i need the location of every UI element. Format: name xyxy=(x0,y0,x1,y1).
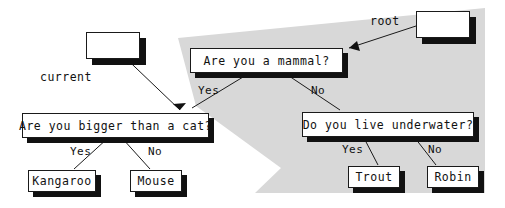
node-question-underwater[interactable]: Do you live underwater? xyxy=(302,112,474,137)
edge-label-underwater-yes: Yes xyxy=(342,143,363,156)
annotation-current: current xyxy=(40,70,92,84)
root-node-box[interactable] xyxy=(416,11,470,38)
node-leaf-robin[interactable]: Robin xyxy=(427,166,479,188)
annotation-root: root xyxy=(370,14,400,28)
edge-label-bigger-no: No xyxy=(148,145,162,158)
diagram-canvas: current root Are you a mammal? Are you b… xyxy=(0,0,505,208)
node-leaf-kangaroo[interactable]: Kangaroo xyxy=(28,170,96,192)
pointer-root-line xyxy=(349,26,416,48)
arrowhead-current xyxy=(173,103,186,110)
node-question-mammal[interactable]: Are you a mammal? xyxy=(190,48,343,73)
edge-label-bigger-yes: Yes xyxy=(70,145,91,158)
current-node-box[interactable] xyxy=(86,32,140,59)
edge-label-mammal-yes: Yes xyxy=(198,84,219,97)
edge-label-underwater-no: No xyxy=(428,143,442,156)
edge-bigger-no xyxy=(122,138,150,169)
node-leaf-trout[interactable]: Trout xyxy=(348,166,400,188)
edge-underwater-yes xyxy=(364,138,378,165)
arrowhead-root xyxy=(349,41,360,51)
node-leaf-mouse[interactable]: Mouse xyxy=(130,170,182,192)
edge-label-mammal-no: No xyxy=(311,84,325,97)
node-question-bigger-than-cat[interactable]: Are you bigger than a cat? xyxy=(22,113,209,138)
